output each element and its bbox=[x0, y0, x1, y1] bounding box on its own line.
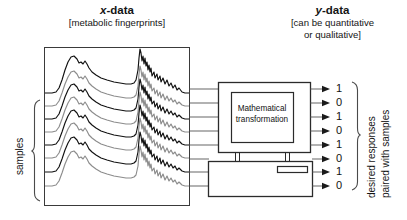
arrow-head-icon bbox=[322, 100, 330, 106]
response-value: 1 bbox=[336, 166, 346, 177]
arrow-head-icon bbox=[322, 114, 330, 120]
x-data-heading-rest: -data bbox=[106, 4, 133, 16]
response-value: 0 bbox=[336, 125, 346, 136]
y-data-heading-rest: -data bbox=[322, 4, 349, 16]
x-data-subtitle: [metabolic fingerprints] bbox=[44, 17, 190, 29]
arrow-head-icon bbox=[322, 128, 330, 134]
response-value: 0 bbox=[336, 97, 346, 108]
desired-responses-label-line1: desired responses bbox=[366, 116, 377, 198]
screen-text-line1: Mathematical bbox=[230, 104, 294, 115]
response-value: 1 bbox=[336, 83, 346, 94]
monitor-stand-right bbox=[286, 153, 290, 162]
x-data-title-block: x-data [metabolic fingerprints] bbox=[44, 3, 190, 29]
arrow-head-icon bbox=[322, 142, 330, 148]
y-data-heading: y-data bbox=[258, 3, 407, 17]
x-data-heading: x-data bbox=[44, 3, 190, 17]
response-value: 1 bbox=[336, 139, 346, 150]
arrow-head-icon bbox=[322, 156, 330, 162]
spectra-plot-frame bbox=[45, 48, 190, 206]
response-value: 1 bbox=[336, 111, 346, 122]
response-value: 0 bbox=[336, 180, 346, 191]
response-value: 0 bbox=[336, 153, 346, 164]
disk-drive-slot bbox=[278, 167, 308, 173]
screen-text-line2: transformation bbox=[230, 115, 294, 126]
samples-bracket bbox=[32, 100, 41, 201]
y-data-subtitle-line1: [can be quantitative bbox=[258, 17, 407, 29]
responses-bracket bbox=[352, 82, 361, 190]
samples-axis-label: samples bbox=[14, 138, 25, 175]
y-data-subtitle-line2: or qualitative] bbox=[258, 29, 407, 41]
desired-responses-label-line2: paired with samples bbox=[380, 110, 391, 198]
monitor-screen-text: Mathematical transformation bbox=[230, 104, 294, 125]
response-arrowheads-group bbox=[322, 86, 330, 189]
arrow-head-icon bbox=[322, 86, 330, 92]
y-data-title-block: y-data [can be quantitative or qualitati… bbox=[258, 3, 407, 41]
figure-canvas: x-data [metabolic fingerprints] y-data [… bbox=[0, 0, 407, 220]
monitor-stand-left bbox=[236, 153, 240, 162]
arrow-head-icon bbox=[322, 169, 330, 175]
arrow-head-icon bbox=[322, 183, 330, 189]
